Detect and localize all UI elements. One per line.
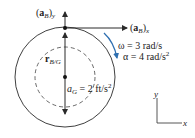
label-alpha: α = 4 rad/s2	[123, 50, 170, 62]
coordinate-axes: y x	[153, 89, 187, 128]
point-G	[63, 75, 67, 79]
label-r-BG: rB/G	[45, 53, 61, 66]
label-aG: aG = 2 ft/s2	[67, 82, 112, 96]
label-aB-x: (aB)x	[130, 22, 150, 35]
axis-y-label: y	[153, 89, 158, 99]
diagram: (aB)y (aB)x ω = 3 rad/s α = 4 rad/s2 rB/…	[0, 0, 195, 138]
point-B	[63, 26, 67, 30]
label-omega: ω = 3 rad/s	[118, 40, 162, 51]
axis-x-label: x	[182, 118, 187, 128]
label-aB-y: (aB)y	[36, 7, 56, 20]
rotation-arrow-icon	[104, 33, 117, 58]
